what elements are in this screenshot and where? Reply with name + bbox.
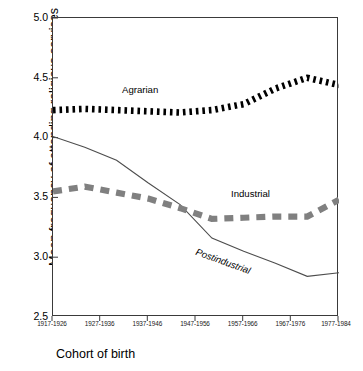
series-canvas	[53, 18, 339, 317]
x-tick-label: 1967-1976	[275, 320, 305, 327]
series-label-agrarian: Agrarian	[122, 84, 158, 95]
chart-figure: Mean frequency of attending religious se…	[0, 0, 363, 371]
y-tick-label: 5.0	[18, 12, 48, 22]
series-line-agrarian	[53, 78, 339, 113]
y-tick-label: 4.0	[18, 131, 48, 141]
x-tick-label: 1947-1956	[180, 320, 210, 327]
x-axis-title: Cohort of birth	[56, 347, 135, 361]
x-tick-label: 1957-1966	[228, 320, 258, 327]
series-label-industrial: Industrial	[231, 188, 270, 199]
x-tick-label: 1917-1926	[37, 320, 67, 327]
y-tick-label: 3.5	[18, 191, 48, 201]
x-tick-label: 1927-1936	[85, 320, 115, 327]
x-tick-label: 1937-1946	[132, 320, 162, 327]
y-tick-label: 3.0	[18, 251, 48, 261]
y-tick-label: 4.5	[18, 72, 48, 82]
plot-area	[52, 17, 338, 316]
series-line-industrial	[53, 187, 339, 219]
x-tick-label: 1977-1984	[321, 320, 351, 327]
